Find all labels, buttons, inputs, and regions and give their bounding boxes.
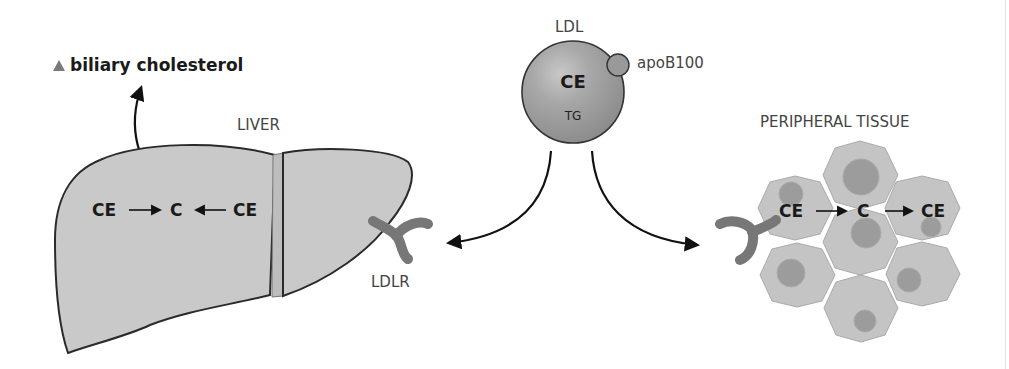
- ldl-cholesterol-diagram: biliary cholesterol LIVER CE C CE LDLR L…: [0, 0, 1009, 369]
- biliary-cholesterol-annotation: biliary cholesterol: [53, 55, 243, 75]
- ldl-tg: TG: [564, 109, 582, 123]
- peripheral-tissue-label: PERIPHERAL TISSUE: [760, 113, 909, 131]
- ldl-ce: CE: [560, 71, 586, 92]
- tissue-c: C: [857, 201, 869, 221]
- tissue-ce-right: CE: [921, 201, 945, 221]
- apob100-protein: [607, 54, 629, 76]
- ldl-label: LDL: [555, 18, 584, 36]
- biliary-cholesterol-label: biliary cholesterol: [70, 55, 243, 75]
- ldl-to-tissue-arrow: [592, 151, 697, 245]
- liver-label: LIVER: [237, 116, 280, 134]
- triangle-up-icon: [53, 60, 65, 71]
- liver-ldlr-receptor: [373, 221, 428, 259]
- apob100-label: apoB100: [637, 54, 704, 72]
- ldlr-label: LDLR: [371, 273, 410, 291]
- peripheral-tissue-cells: [758, 141, 960, 342]
- ldl-particle: CE TG: [522, 41, 629, 143]
- liver-organ: [55, 145, 412, 353]
- liver-ce-right: CE: [233, 200, 257, 220]
- liver-c: C: [170, 200, 182, 220]
- ldl-to-liver-arrow: [449, 151, 551, 243]
- liver-ce-left: CE: [92, 200, 116, 220]
- tissue-ldlr-receptor: [720, 220, 776, 260]
- tissue-ce-left: CE: [779, 201, 803, 221]
